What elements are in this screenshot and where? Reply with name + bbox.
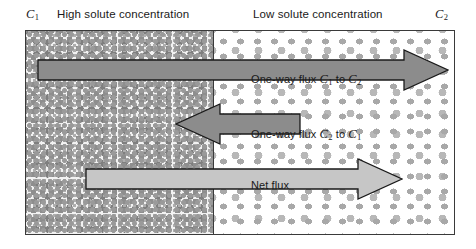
net-flux-arrow: [85, 158, 403, 200]
diffusion-flux-figure: C1 High solute concentration Low solute …: [0, 0, 476, 249]
c1-subscript: 1: [34, 12, 39, 22]
caption-forward-mid: to: [333, 73, 349, 85]
concentration-c1-label: C1: [26, 7, 39, 22]
caption-forward-to-sub: 2: [357, 77, 362, 87]
one-way-flux-backward-label: One-way flux C2 to C1: [251, 127, 361, 142]
concentration-box: One-way flux C1 to C2 One-way flux C2 to…: [25, 30, 455, 235]
high-concentration-header: High solute concentration: [57, 8, 189, 20]
one-way-flux-forward-arrow: [37, 49, 449, 91]
caption-forward-from: C: [320, 72, 328, 86]
concentration-c2-label: C2: [435, 7, 448, 22]
caption-back-from: C: [320, 127, 328, 141]
caption-forward-prefix: One-way flux: [251, 73, 320, 85]
low-concentration-header: Low solute concentration: [253, 8, 383, 20]
one-way-flux-forward-label: One-way flux C1 to C2: [251, 72, 361, 87]
caption-back-mid: to: [333, 128, 349, 140]
caption-back-to-sub: 1: [357, 132, 362, 142]
caption-back-prefix: One-way flux: [251, 128, 320, 140]
caption-forward-to: C: [348, 72, 356, 86]
c2-subscript: 2: [443, 12, 448, 22]
net-flux-label: Net flux: [251, 179, 289, 191]
caption-back-to: C: [348, 127, 356, 141]
